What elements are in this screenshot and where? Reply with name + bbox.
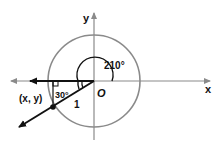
angle-label: 210°	[104, 60, 125, 71]
origin-label: O	[97, 87, 106, 99]
point-on-circle	[50, 104, 56, 110]
y-axis-label: y	[83, 12, 90, 24]
point-label: (x, y)	[19, 93, 42, 104]
unit-circle-diagram: y x O 210° 30° (x, y) 1	[0, 0, 223, 151]
x-axis-label: x	[205, 83, 212, 95]
reference-angle-arc	[82, 81, 83, 88]
radius-label: 1	[74, 99, 80, 110]
angle-arc-210-lower	[78, 81, 79, 89]
reference-angle-label: 30°	[55, 90, 69, 100]
